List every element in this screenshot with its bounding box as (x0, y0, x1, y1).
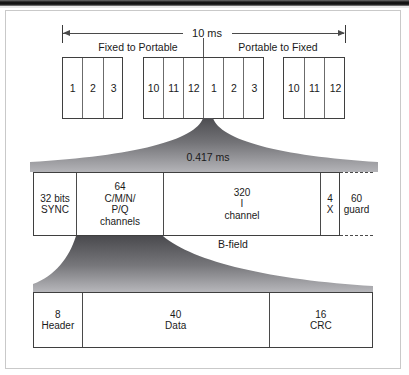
page-top-rule-shadow (0, 6, 409, 8)
cell-label: SYNC (41, 204, 69, 216)
slot-cell: 3 (104, 58, 124, 118)
timing-arrowhead-left (63, 30, 70, 36)
timing-tick-right (345, 25, 346, 43)
cell-value: 8 (55, 309, 61, 321)
cell-label: channels (100, 216, 140, 228)
cell-label: C/M/N/ (104, 193, 135, 205)
slot-cell: 12 (184, 58, 204, 118)
timing-arrowhead-right (338, 30, 345, 36)
timing-arrow-line-left (63, 33, 183, 34)
slot-group-frame-boundary: 10 11 12 1 2 3 (143, 57, 264, 119)
timing-arrow-line-right (232, 33, 344, 34)
slot-cell: 11 (305, 58, 326, 118)
funnel-slot-to-burst (30, 118, 378, 172)
cell-value: 16 (315, 309, 326, 321)
burst-structure-bar: 32 bits SYNC 64 C/M/N/ P/Q channels 320 … (33, 172, 340, 236)
slot-cell: 1 (63, 58, 83, 118)
cell-value: 320 (234, 187, 251, 199)
frame-centerline (203, 38, 204, 58)
slot-group-portable-to-fixed-end: 10 11 12 (283, 57, 345, 119)
cell-label: I (241, 198, 244, 210)
burst-cell-a-field: 64 C/M/N/ P/Q channels (77, 173, 164, 235)
slot-cell: 1 (204, 58, 224, 118)
slot-cell: 10 (284, 58, 305, 118)
slot-cell: 12 (325, 58, 346, 118)
burst-cell-x-field: 4 X (321, 173, 339, 235)
slot-group-fixed-to-portable-start: 1 2 3 (62, 57, 123, 119)
cell-value: 40 (170, 309, 181, 321)
burst-cell-b-field: 320 I channel (164, 173, 321, 235)
packet-cell-header: 8 Header (34, 293, 83, 347)
funnel-afield-to-packet (33, 236, 373, 294)
cell-value: 32 bits (40, 193, 69, 205)
slot-cell: 2 (224, 58, 244, 118)
total-duration-label: 10 ms (182, 28, 232, 39)
burst-duration-label: 0.417 ms (175, 152, 241, 163)
cell-value: 60 (351, 193, 362, 205)
burst-cell-sync-field: 32 bits SYNC (34, 173, 77, 235)
cell-label: X (327, 204, 334, 216)
cell-value: 64 (114, 181, 125, 193)
slot-cell: 10 (144, 58, 164, 118)
packet-structure-bar: 8 Header 40 Data 16 CRC (33, 292, 373, 348)
burst-cell-guard: 60 guard (340, 172, 373, 236)
cell-label: CRC (310, 320, 332, 332)
slot-cell: 11 (164, 58, 184, 118)
cell-label: channel (224, 210, 259, 222)
figure-canvas: 10 ms Fixed to Portable Portable to Fixe… (0, 0, 409, 375)
cell-label: Header (41, 320, 74, 332)
cell-label: P/Q (111, 204, 128, 216)
direction-label-fixed-to-portable: Fixed to Portable (78, 42, 198, 53)
cell-value: 4 (327, 193, 333, 205)
cell-label: Data (165, 320, 186, 332)
cell-label: guard (344, 204, 370, 216)
direction-label-portable-to-fixed: Portable to Fixed (218, 42, 338, 53)
packet-cell-data: 40 Data (83, 293, 270, 347)
slot-cell: 2 (83, 58, 103, 118)
slot-cell: 3 (244, 58, 264, 118)
packet-cell-crc: 16 CRC (270, 293, 372, 347)
